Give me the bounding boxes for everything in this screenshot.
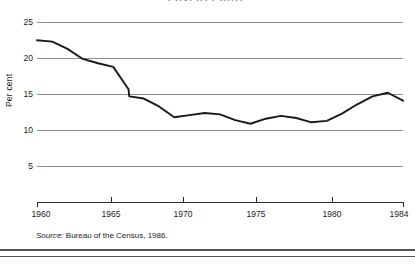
x-axis-line — [37, 202, 403, 203]
y-tick-label-5: 5 — [28, 161, 33, 171]
poverty-rate-figure: POVERTY RATE 25 20 15 10 5 Per cent 1960… — [0, 0, 415, 267]
y-tick-label-25: 25 — [24, 17, 33, 27]
chart-title: POVERTY RATE — [0, 0, 415, 1]
x-tick-1970 — [183, 197, 184, 202]
x-tick-1965 — [111, 197, 112, 202]
y-axis-title: Per cent — [4, 74, 14, 107]
x-tick-label-1970: 1970 — [174, 209, 193, 219]
gridline-20: 20 — [37, 58, 403, 59]
x-tick-label-1984: 1984 — [390, 209, 409, 219]
y-tick-label-10: 10 — [24, 125, 33, 135]
x-tick-1960 — [37, 202, 38, 207]
y-tick-label-15: 15 — [24, 89, 33, 99]
source-value: Bureau of the Census, 1986. — [64, 231, 168, 240]
page-rule-top — [0, 249, 415, 251]
x-tick-1984 — [403, 202, 404, 207]
x-tick-label-1965: 1965 — [102, 209, 121, 219]
page-rule-bottom — [0, 256, 415, 257]
x-tick-label-1980: 1980 — [323, 209, 342, 219]
gridline-15: 15 — [37, 94, 403, 95]
gridline-25: 25 — [37, 22, 403, 23]
source-note: Source: Bureau of the Census, 1986. — [36, 231, 168, 240]
gridline-10: 10 — [37, 130, 403, 131]
x-tick-1980 — [332, 197, 333, 202]
x-tick-label-1975: 1975 — [247, 209, 266, 219]
x-tick-label-1960: 1960 — [32, 209, 51, 219]
y-tick-label-20: 20 — [24, 53, 33, 63]
gridline-5: 5 — [37, 166, 403, 167]
source-label: Source: — [36, 231, 64, 240]
x-tick-1975 — [256, 197, 257, 202]
plot-area: 25 20 15 10 5 — [37, 18, 403, 200]
